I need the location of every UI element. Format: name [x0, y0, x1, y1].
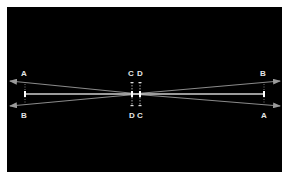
- center-marker-2-top: [139, 82, 142, 83]
- label-right-bottom: A: [261, 111, 267, 120]
- center-cap-1: [131, 91, 133, 97]
- label-center-bottom-left: D: [129, 111, 135, 120]
- right-end-cap: [263, 91, 265, 97]
- ray-a-right: [132, 94, 280, 106]
- label-right-top: B: [260, 69, 266, 78]
- left-end-cap: [24, 91, 26, 97]
- ray-b-right: [132, 81, 280, 94]
- ray-b: [10, 94, 140, 106]
- center-marker-1-bottom: [131, 105, 134, 106]
- label-center-bottom-right: C: [137, 111, 143, 120]
- label-left-bottom: B: [21, 111, 27, 120]
- label-left-top: A: [21, 69, 27, 78]
- center-marker-1-top: [131, 82, 134, 83]
- crossing-lines-diagram: A B C D D C B A: [0, 0, 287, 176]
- label-center-top-left: C: [128, 69, 134, 78]
- center-marker-2-bottom: [139, 105, 142, 106]
- ray-a: [10, 81, 140, 94]
- label-center-top-right: D: [137, 69, 143, 78]
- center-cap-2: [139, 91, 141, 97]
